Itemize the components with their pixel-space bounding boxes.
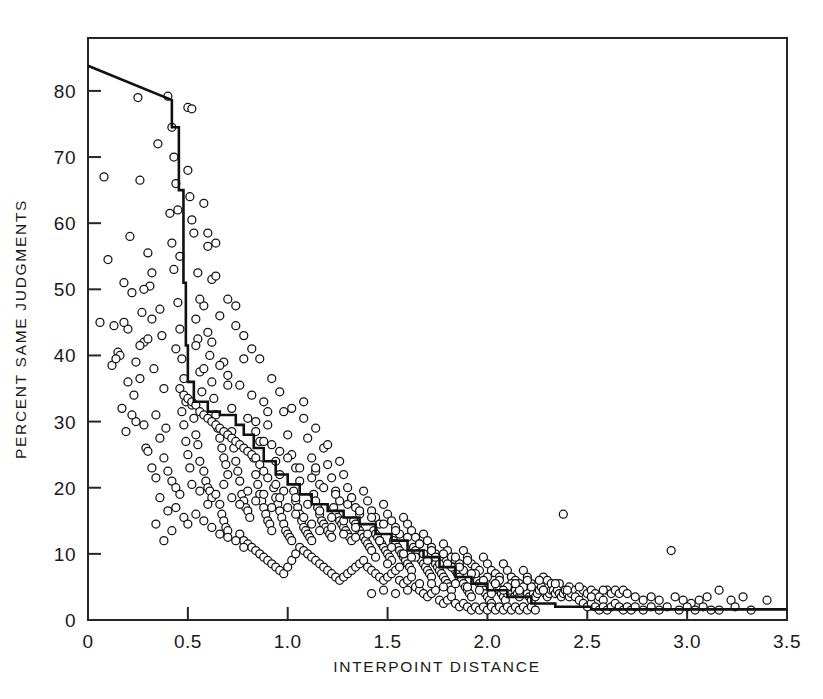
data-point (264, 474, 272, 482)
data-point (248, 345, 256, 353)
data-point (703, 593, 711, 601)
data-point (172, 504, 180, 512)
data-point (308, 454, 316, 462)
data-point (328, 513, 336, 521)
data-point (276, 388, 284, 396)
data-point (523, 576, 531, 584)
data-point (491, 580, 499, 588)
data-point (212, 272, 220, 280)
data-point (368, 513, 376, 521)
data-point (276, 447, 284, 455)
data-point (376, 537, 384, 545)
y-tick-label: 50 (54, 279, 76, 300)
x-tick-label: 3.0 (673, 631, 701, 652)
data-point (178, 355, 186, 363)
data-point (416, 540, 424, 548)
data-point (210, 394, 218, 402)
data-point (763, 596, 771, 604)
data-point (328, 523, 336, 531)
data-point (112, 355, 120, 363)
data-point (110, 322, 118, 330)
data-point (152, 411, 160, 419)
data-point (236, 381, 244, 389)
data-point (204, 242, 212, 250)
data-point (232, 322, 240, 330)
data-point (220, 480, 228, 488)
data-point (328, 533, 336, 541)
data-point (288, 537, 296, 545)
data-point (475, 586, 483, 594)
data-point (160, 454, 168, 462)
data-point (439, 583, 447, 591)
data-point (276, 494, 284, 502)
data-point (739, 593, 747, 601)
data-point (639, 596, 647, 604)
data-point (136, 342, 144, 350)
data-point (224, 381, 232, 389)
data-point (344, 484, 352, 492)
data-point (328, 474, 336, 482)
data-point (408, 573, 416, 581)
y-tick-label: 0 (65, 610, 76, 631)
data-point (134, 94, 142, 102)
figure-container: 00.51.01.52.02.53.03.5 01020304050607080… (0, 0, 823, 699)
data-point (224, 371, 232, 379)
data-point (192, 510, 200, 518)
data-point (623, 590, 631, 598)
data-point (204, 328, 212, 336)
data-point (304, 434, 312, 442)
data-point (104, 256, 112, 264)
data-point (184, 520, 192, 528)
data-point (208, 378, 216, 386)
data-point (160, 385, 168, 393)
data-point (176, 490, 184, 498)
data-point (372, 553, 380, 561)
data-point (284, 504, 292, 512)
data-point (128, 411, 136, 419)
data-point (194, 269, 202, 277)
y-tick-label: 30 (54, 412, 76, 433)
data-point (300, 398, 308, 406)
data-point (192, 315, 200, 323)
data-point (246, 513, 254, 521)
data-point (188, 105, 196, 113)
data-point (380, 586, 388, 594)
data-point (416, 580, 424, 588)
data-point (224, 295, 232, 303)
data-point (148, 464, 156, 472)
data-point (428, 580, 436, 588)
data-point (156, 305, 164, 313)
data-point (531, 606, 539, 614)
data-point (198, 388, 206, 396)
data-point (388, 543, 396, 551)
data-point (392, 590, 400, 598)
y-tick-label: 40 (54, 345, 76, 366)
data-point (364, 497, 372, 505)
data-point (631, 593, 639, 601)
data-point (128, 289, 136, 297)
data-point (228, 404, 236, 412)
data-point (212, 490, 220, 498)
data-point (156, 434, 164, 442)
data-point (200, 467, 208, 475)
data-point (316, 527, 324, 535)
data-point (206, 351, 214, 359)
x-tick-label: 0.5 (174, 631, 202, 652)
data-point (152, 474, 160, 482)
data-point (260, 490, 268, 498)
data-point (190, 414, 198, 422)
data-point (451, 580, 459, 588)
data-point (196, 487, 204, 495)
data-point (174, 206, 182, 214)
data-point (152, 520, 160, 528)
data-point (268, 504, 276, 512)
data-point (312, 464, 320, 472)
data-point (162, 424, 170, 432)
data-point (178, 408, 186, 416)
data-point (154, 140, 162, 148)
data-point (264, 421, 272, 429)
data-point (136, 176, 144, 184)
data-point (667, 547, 675, 555)
data-point (174, 299, 182, 307)
data-point (260, 437, 268, 445)
